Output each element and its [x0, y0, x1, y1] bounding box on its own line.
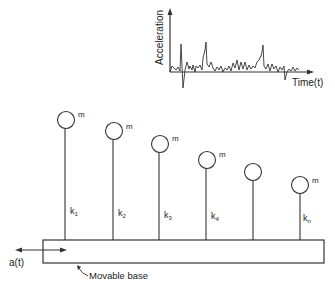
movable-base — [43, 240, 324, 263]
mass-spring-3: m k3 — [152, 134, 180, 240]
mass-label: m — [78, 110, 85, 119]
mass-circle — [58, 112, 75, 129]
y-axis-arrow-icon — [168, 8, 173, 15]
x-axis-label: Time(t) — [292, 77, 323, 88]
base-annotation: Movable base — [77, 265, 148, 281]
spring-label: k3 — [164, 210, 173, 221]
mass-label: m — [312, 176, 319, 185]
acceleration-signal — [170, 42, 299, 88]
mass-spring-1: m k1 — [58, 110, 86, 240]
mass-spring-5 — [245, 164, 262, 241]
mass-circle — [152, 136, 169, 153]
mass-spring-4: m k4 — [199, 150, 227, 240]
mass-circle — [106, 123, 123, 140]
mass-label: m — [172, 134, 179, 143]
mass-spring-2: m k2 — [106, 122, 134, 240]
base-label: Movable base — [89, 270, 148, 281]
mass-circle — [245, 164, 262, 181]
mass-label: m — [126, 122, 133, 131]
excitation-label: a(t) — [9, 257, 24, 268]
spring-label: k2 — [118, 208, 127, 219]
mass-spring-n: m kn — [292, 176, 320, 240]
arrow-left-icon — [15, 248, 22, 253]
spring-label: k4 — [211, 211, 220, 222]
x-axis-arrow-icon — [307, 70, 314, 75]
acceleration-chart: Acceleration Time(t) — [154, 8, 323, 88]
spring-label: kn — [303, 213, 311, 224]
mass-circle — [199, 152, 216, 169]
mass-label: m — [219, 150, 226, 159]
y-axis-label: Acceleration — [154, 10, 165, 65]
mass-circle — [292, 177, 309, 194]
spring-label: k1 — [70, 206, 79, 217]
diagram-canvas: Acceleration Time(t) m k1 m k2 m k3 m k4… — [0, 0, 335, 289]
